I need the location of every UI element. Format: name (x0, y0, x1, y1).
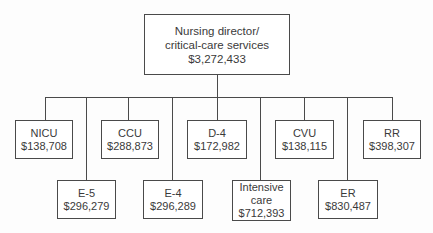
stem-e4 (172, 97, 173, 180)
node-amount: $712,393 (239, 207, 285, 220)
stem-er (347, 97, 348, 180)
node-er: ER $830,487 (318, 180, 378, 219)
node-ccu: CCU $288,873 (101, 120, 159, 159)
node-label: NICU (31, 127, 58, 140)
node-amount: $296,289 (150, 200, 196, 213)
bus-line (45, 97, 393, 98)
node-label: D-4 (208, 127, 226, 140)
root-title-line1: Nursing director/ (175, 24, 259, 38)
root-amount: $3,272,433 (188, 52, 246, 66)
node-amount: $288,873 (107, 140, 153, 153)
root-title-line2: critical-care services (165, 38, 269, 52)
node-label: ER (340, 187, 355, 200)
node-label: CVU (293, 127, 316, 140)
stem-d4 (217, 97, 218, 120)
node-amount: $138,115 (282, 140, 327, 153)
stem-nicu (45, 97, 46, 120)
node-amount: $138,708 (21, 140, 67, 153)
node-amount: $172,982 (194, 140, 240, 153)
node-rr: RR $398,307 (363, 120, 421, 159)
root-node-nursing-director: Nursing director/ critical-care services… (144, 14, 290, 75)
node-amount: $296,279 (64, 200, 110, 213)
node-amount: $398,307 (369, 140, 415, 153)
node-cvu: CVU $138,115 (275, 120, 334, 159)
node-amount: $830,487 (325, 200, 371, 213)
node-d4: D-4 $172,982 (187, 120, 247, 159)
node-label: CCU (118, 127, 142, 140)
node-label: E-4 (164, 187, 181, 200)
stem-cvu (304, 97, 305, 120)
node-label-line2: care (251, 194, 272, 207)
stem-e5 (86, 97, 87, 180)
node-label: RR (384, 127, 400, 140)
root-stem (217, 74, 218, 97)
node-e5: E-5 $296,279 (57, 180, 116, 219)
node-intensive-care: Intensive care $712,393 (232, 180, 291, 221)
node-label: E-5 (78, 187, 95, 200)
node-label-line1: Intensive (239, 181, 283, 194)
node-nicu: NICU $138,708 (15, 120, 73, 159)
stem-rr (392, 97, 393, 120)
stem-intensive-care (260, 97, 261, 180)
node-e4: E-4 $296,289 (143, 180, 203, 219)
stem-ccu (128, 97, 129, 120)
